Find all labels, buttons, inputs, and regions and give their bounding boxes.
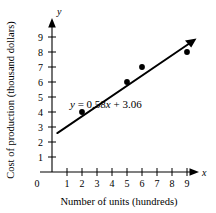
equation-equals: = xyxy=(75,98,87,110)
origin-label: 0 xyxy=(35,178,40,189)
y-tick-label: 6 xyxy=(38,77,43,88)
x-tick-label: 6 xyxy=(140,178,145,189)
y-tick-label: 2 xyxy=(38,137,43,148)
y-tick-label: 5 xyxy=(38,92,43,103)
x-axis-title: Number of units (hundreds) xyxy=(61,196,178,208)
y-axis: y xyxy=(48,6,62,172)
x-tick-label: 3 xyxy=(95,178,100,189)
x-tick-label: 4 xyxy=(110,178,115,189)
x-axis-tick-labels: 1 2 3 4 5 6 7 8 9 xyxy=(65,178,190,189)
y-tick-label: 4 xyxy=(38,107,43,118)
y-axis-title: Cost of production (thousand dollars) xyxy=(5,21,17,179)
equation-coefficient: 0.58 xyxy=(87,98,107,110)
x-tick-label: 7 xyxy=(155,178,160,189)
x-axis: x xyxy=(40,167,207,178)
x-axis-variable-label: x xyxy=(201,167,207,178)
regression-equation-label: y = 0.58x + 3.06 xyxy=(69,98,142,110)
y-axis-tick-labels: 1 2 3 4 5 6 7 8 9 xyxy=(38,32,43,163)
regression-trend-line xyxy=(57,39,196,134)
y-axis-variable-label: y xyxy=(56,6,62,17)
trend-line-segment xyxy=(57,42,191,133)
scatter-plot-figure: y x 0 1 2 3 4 5 6 xyxy=(0,0,216,213)
x-axis-arrowhead xyxy=(190,168,200,176)
x-tick-label: 8 xyxy=(170,178,175,189)
plot-canvas: y x 0 1 2 3 4 5 6 xyxy=(0,0,216,213)
x-tick-label: 1 xyxy=(65,178,70,189)
data-point xyxy=(139,64,145,70)
y-tick-label: 8 xyxy=(38,47,43,58)
y-tick-label: 9 xyxy=(38,32,43,43)
equation-constant: 3.06 xyxy=(122,98,142,110)
x-tick-label: 5 xyxy=(125,178,130,189)
data-point xyxy=(124,79,130,85)
x-tick-label: 9 xyxy=(185,178,190,189)
y-axis-arrowhead xyxy=(48,18,56,28)
equation-plus: + xyxy=(111,98,123,110)
y-tick-label: 7 xyxy=(38,62,43,73)
y-tick-label: 3 xyxy=(38,122,43,133)
y-tick-label: 1 xyxy=(38,152,43,163)
x-tick-label: 2 xyxy=(80,178,85,189)
data-point xyxy=(184,49,190,55)
